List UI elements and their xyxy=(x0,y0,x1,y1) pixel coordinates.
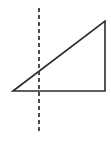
figure-container: Right triangle with vertical dashed line xyxy=(0,0,111,144)
geometry-figure xyxy=(0,0,111,144)
figure-background xyxy=(0,0,111,144)
